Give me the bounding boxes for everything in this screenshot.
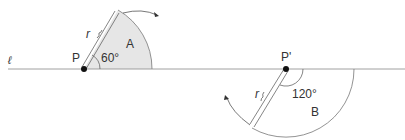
- angle-label-60: 60°: [101, 51, 119, 65]
- radius-label-b: r: [255, 87, 260, 101]
- rotation-arrow-b: [227, 98, 250, 125]
- line-label: ℓ: [7, 54, 12, 66]
- rotation-arrow-a: [123, 11, 157, 15]
- sector-b-arc: [252, 69, 354, 137]
- region-label-b: B: [311, 105, 319, 119]
- brace-icon: [261, 92, 264, 101]
- angle-arc-120: [280, 69, 303, 86]
- point-p-label: P: [72, 51, 80, 65]
- region-label-a: A: [126, 37, 134, 51]
- arrowhead-icon: [224, 95, 229, 100]
- angle-label-120: 120°: [292, 87, 317, 101]
- radius-label-a: r: [86, 27, 91, 41]
- point-p-prime: [283, 66, 289, 72]
- arrowhead-icon: [154, 12, 159, 17]
- point-p-prime-label: P': [281, 50, 291, 64]
- diagram-canvas: ℓ P r 60° A P' r 120° B: [0, 0, 405, 140]
- rotation-diagram: ℓ P r 60° A P' r 120° B: [0, 0, 405, 140]
- point-p: [81, 66, 87, 72]
